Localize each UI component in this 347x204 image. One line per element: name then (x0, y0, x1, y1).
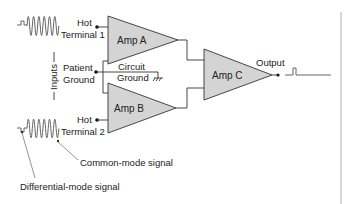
amp-a-label: Amp A (117, 35, 147, 46)
hot-terminal-2-label-line2: Terminal 2 (61, 126, 105, 137)
patient-ground-label-line1: Patient (63, 62, 93, 73)
amp-b-to-c-wire (176, 88, 204, 108)
amp-c-label: Amp C (212, 70, 243, 81)
input-waveform-2 (17, 119, 59, 138)
amplifier-diagram: Inputs Hot Terminal 1 Patient Ground Cir… (0, 0, 347, 204)
hot-terminal-1-label-line2: Terminal 1 (61, 29, 105, 40)
circuit-ground-label-line2: Ground (117, 72, 149, 83)
amp-b-label: Amp B (114, 103, 144, 114)
differential-mode-annotation: Differential-mode signal (20, 181, 120, 192)
common-mode-leader-dot (57, 140, 59, 142)
common-mode-annotation: Common-mode signal (80, 157, 173, 168)
output-label: Output (256, 57, 285, 68)
output-waveform (285, 68, 331, 75)
differential-mode-leader (22, 133, 35, 178)
inputs-label: Inputs (48, 64, 59, 90)
circuit-ground-symbol-icon (153, 78, 163, 81)
input-waveform-1 (17, 17, 59, 36)
patient-ground-label-line2: Ground (63, 74, 95, 85)
differential-mode-leader-dot (21, 131, 23, 133)
amp-a-to-c-wire (178, 40, 204, 60)
common-mode-leader (58, 142, 78, 160)
hot-terminal-1-label-line1: Hot (77, 17, 92, 28)
gain-bracket-wire (103, 61, 108, 93)
circuit-ground-label-line1: Circuit (118, 61, 145, 72)
hot-terminal-2-label-line1: Hot (77, 114, 92, 125)
